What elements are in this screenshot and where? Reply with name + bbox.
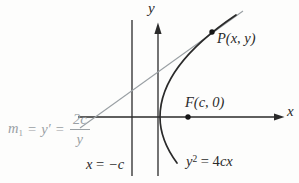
slope-label: m1 = y′ = 2c y: [8, 112, 91, 146]
slope-eq1: =: [27, 121, 37, 138]
slope-fraction-numerator: 2c: [69, 112, 91, 129]
x-axis-label: x: [287, 103, 294, 120]
slope-m-sub: 1: [18, 128, 23, 138]
curve-equation-label: y2 = 4cx: [186, 153, 233, 170]
focus-label: F(c, 0): [185, 94, 224, 111]
y-axis-label: y: [148, 0, 155, 17]
slope-fraction: 2c y: [69, 112, 91, 146]
point-p-label: P(x, y): [217, 30, 256, 47]
directrix-eq: =: [92, 156, 107, 172]
curve-eq-equals: = 4: [197, 153, 220, 169]
slope-fraction-denominator: y: [70, 129, 90, 147]
y-axis-arrow-icon: [154, 23, 161, 35]
parabola-figure: y x P(x, y) F(c, 0) x = −c y2 = 4cx m1 =…: [0, 0, 299, 183]
directrix-label: x = −c: [86, 156, 124, 173]
directrix-val: −c: [108, 156, 124, 172]
curve-eq-vars: cx: [220, 153, 233, 169]
slope-yprime: y′: [41, 121, 51, 138]
slope-eq2: =: [55, 121, 65, 138]
slope-m: m1: [8, 120, 23, 138]
point-p: [209, 29, 214, 34]
slope-m-var: m: [8, 120, 18, 136]
focus-point: [185, 114, 190, 119]
figure-canvas: [0, 0, 299, 183]
x-axis-arrow-icon: [274, 113, 285, 120]
